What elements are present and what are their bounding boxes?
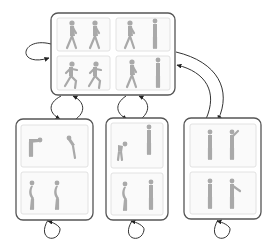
state-diagram <box>0 0 273 247</box>
edge-bottom-middle-to-top <box>139 96 148 119</box>
panel-top-0-1 <box>116 18 170 51</box>
panel-bottom-middle-0 <box>111 123 163 168</box>
state-node-top <box>51 13 175 95</box>
edge-bottom-left-self-loop <box>44 220 60 238</box>
edge-bottom-left-to-top <box>73 96 83 119</box>
panel-bottom-right-0 <box>190 124 256 167</box>
state-node-bottom-right <box>184 118 261 219</box>
panel-top-1-1 <box>116 56 170 90</box>
panel-top-1-0 <box>57 56 110 90</box>
edge-top-to-bottom-right <box>176 52 223 120</box>
state-node-bottom-middle <box>106 118 168 220</box>
edge-bottom-right-self-loop <box>214 220 230 238</box>
edge-bottom-right-to-top <box>177 65 211 119</box>
edge-top-to-bottom-middle <box>118 96 127 119</box>
panel-bottom-middle-1 <box>111 173 163 215</box>
edge-top-self-loop <box>26 43 51 60</box>
panel-bottom-left-1 <box>21 172 88 214</box>
panel-bottom-left-0 <box>21 125 88 167</box>
panel-bottom-right-1 <box>190 172 256 214</box>
edge-top-to-bottom-left <box>51 96 61 119</box>
panel-top-0-0 <box>57 18 110 51</box>
state-node-bottom-left <box>16 119 93 220</box>
edge-bottom-middle-self-loop <box>128 221 144 238</box>
